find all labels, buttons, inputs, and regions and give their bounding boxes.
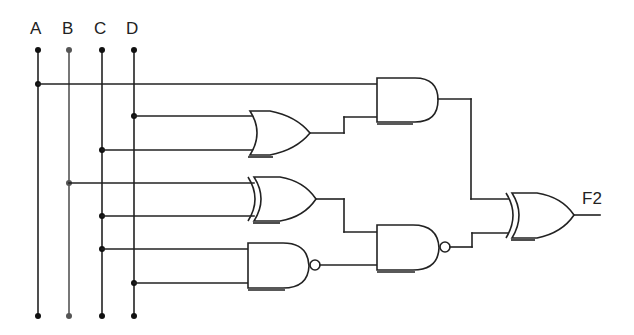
terminal-b-bottom	[66, 313, 72, 319]
input-label-d: D	[126, 19, 138, 38]
terminal-c-bottom	[99, 313, 105, 319]
input-label-b: B	[62, 19, 73, 38]
terminal-c-top	[99, 47, 105, 53]
nand-bubble	[310, 260, 320, 270]
nand-bubble-main	[440, 242, 450, 252]
terminal-b-top	[66, 47, 72, 53]
or-gate	[248, 111, 310, 157]
input-wires	[35, 81, 377, 286]
logic-circuit-diagram: A B C D	[0, 0, 634, 335]
output-label-f2: F2	[582, 189, 602, 208]
terminal-a-bottom	[35, 313, 41, 319]
terminal-a-top	[35, 47, 41, 53]
xor-gate-bc	[248, 177, 316, 223]
input-label-a: A	[30, 19, 42, 38]
input-label-c: C	[94, 19, 106, 38]
and-gate	[377, 78, 438, 124]
nand-gate-main	[377, 225, 450, 272]
xor-gate-output	[506, 193, 574, 240]
nand-gate-cd	[248, 243, 320, 290]
terminal-d-bottom	[131, 313, 137, 319]
terminal-d-top	[131, 47, 137, 53]
